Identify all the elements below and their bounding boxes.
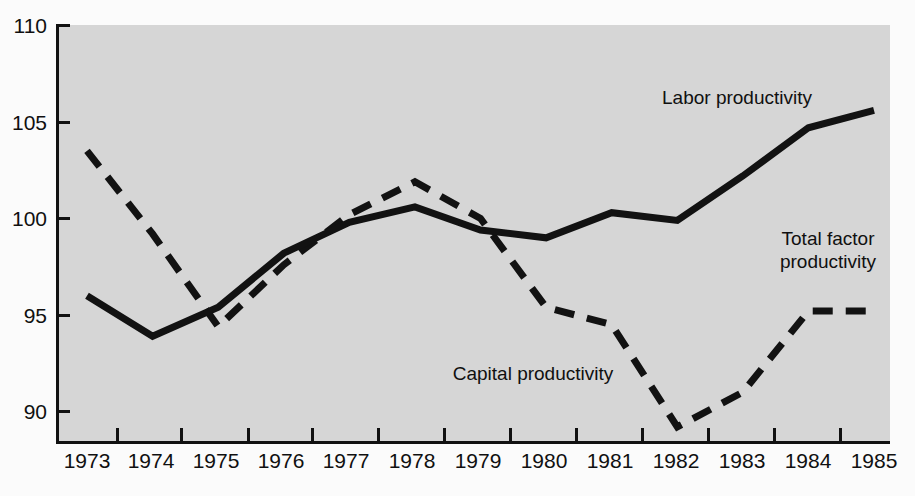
annotation-total-factor-productivity-line2: productivity [780, 251, 877, 272]
annotation-capital-productivity: Capital productivity [453, 363, 614, 384]
x-tick-label-1983: 1983 [719, 449, 766, 472]
annotation-labor-productivity: Labor productivity [662, 87, 812, 108]
y-tick-label-90: 90 [24, 400, 47, 423]
x-tick-label-1975: 1975 [193, 449, 240, 472]
x-tick-label-1978: 1978 [389, 449, 436, 472]
y-tick-label-95: 95 [24, 304, 47, 327]
x-tick-label-1984: 1984 [785, 449, 832, 472]
x-tick-label-1985: 1985 [851, 449, 898, 472]
x-tick-label-1980: 1980 [521, 449, 568, 472]
x-tick-label-1979: 1979 [455, 449, 502, 472]
y-tick-label-100: 100 [12, 207, 47, 230]
annotation-total-factor-productivity-line1: Total factor [782, 228, 876, 249]
x-tick-label-1982: 1982 [653, 449, 700, 472]
x-tick-label-1973: 1973 [64, 449, 111, 472]
y-tick-label-110: 110 [14, 14, 47, 37]
x-tick-label-1977: 1977 [323, 449, 370, 472]
x-tick-label-1976: 1976 [258, 449, 305, 472]
chart-canvas: 110 105 100 95 90 1973 1974 1975 1976 19… [0, 0, 915, 496]
productivity-index-chart: 110 105 100 95 90 1973 1974 1975 1976 19… [0, 0, 915, 496]
y-tick-label-105: 105 [12, 111, 47, 134]
x-tick-label-1974: 1974 [128, 449, 175, 472]
x-tick-label-1981: 1981 [587, 449, 634, 472]
